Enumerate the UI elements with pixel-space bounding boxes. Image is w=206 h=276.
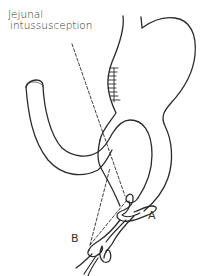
jejunal-intussusception-annotation: Jejunal intussusception (8, 9, 92, 31)
intussusception-body-upper (89, 220, 120, 250)
intussusception-body-inner (106, 220, 126, 242)
annotation-line-2: intussusception (10, 20, 92, 31)
diagram-canvas: Jejunal intussusception A B (0, 0, 206, 276)
anatomy-drawing (0, 0, 206, 276)
afferent-loop-inner (43, 86, 152, 198)
label-a: A (148, 210, 156, 221)
stomach-lesser-curvature (100, 16, 123, 140)
leader-line-annotation (72, 44, 125, 196)
stomach-greater-curvature (141, 17, 195, 211)
label-b: B (71, 233, 79, 244)
